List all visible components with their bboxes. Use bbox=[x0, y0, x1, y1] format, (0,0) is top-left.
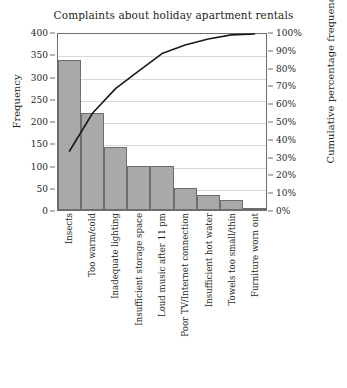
y-left-tick-mark bbox=[50, 122, 55, 123]
y-right-tick-mark bbox=[268, 50, 273, 51]
y-left-tick-label: 200 bbox=[31, 118, 48, 127]
y-left-tick-label: 350 bbox=[31, 51, 48, 60]
x-category-label: Insects bbox=[64, 213, 73, 244]
y-left-tick-label: 300 bbox=[31, 73, 48, 82]
y-left-tick-mark bbox=[50, 33, 55, 34]
x-label-slot: Furniture worn out bbox=[244, 213, 267, 388]
y-right-tick-label: 10% bbox=[276, 189, 296, 198]
y-left-tick-mark bbox=[50, 211, 55, 212]
cumulative-line bbox=[70, 34, 255, 151]
y-right-tick-mark bbox=[268, 157, 273, 158]
y-left-tick-mark bbox=[50, 166, 55, 167]
x-category-label: Inadequate lighting bbox=[111, 213, 120, 299]
y-right-tick-label: 20% bbox=[276, 171, 296, 180]
x-label-slot: Loud music after 11 pm bbox=[150, 213, 173, 388]
x-category-label: Towels too small/thin bbox=[227, 213, 236, 305]
y-axis-right: 0%10%20%30%40%50%60%70%80%90%100% bbox=[268, 33, 320, 211]
y-right-tick-mark bbox=[268, 139, 273, 140]
y-left-tick-mark bbox=[50, 77, 55, 78]
x-label-slot: Inadequate lighting bbox=[104, 213, 127, 388]
x-category-label: Insufficient storage space bbox=[134, 213, 143, 326]
x-label-slot: Insufficient storage space bbox=[127, 213, 150, 388]
plot-area bbox=[57, 33, 267, 211]
cumulative-line-series bbox=[58, 34, 266, 210]
x-label-slot: Towels too small/thin bbox=[220, 213, 243, 388]
y-left-tick-label: 250 bbox=[31, 95, 48, 104]
x-category-label: Poor TV/Internet connection bbox=[181, 213, 190, 337]
y-right-tick-label: 70% bbox=[276, 82, 296, 91]
y-right-tick-mark bbox=[268, 193, 273, 194]
y-left-tick-mark bbox=[50, 55, 55, 56]
y-right-tick-mark bbox=[268, 86, 273, 87]
y-right-tick-label: 0% bbox=[276, 207, 290, 216]
y-right-tick-mark bbox=[268, 175, 273, 176]
chart-title: Complaints about holiday apartment renta… bbox=[0, 9, 347, 21]
x-label-slot: Insufficient hot water bbox=[197, 213, 220, 388]
y-left-tick-mark bbox=[50, 188, 55, 189]
y-right-tick-mark bbox=[268, 104, 273, 105]
y-right-tick-mark bbox=[268, 33, 273, 34]
y-right-tick-label: 90% bbox=[276, 46, 296, 55]
x-label-slot: Insects bbox=[57, 213, 80, 388]
y-right-tick-mark bbox=[268, 211, 273, 212]
y-right-tick-label: 40% bbox=[276, 135, 296, 144]
y-left-tick-label: 100 bbox=[31, 162, 48, 171]
x-label-slot: Too warm/cold bbox=[80, 213, 103, 388]
y-right-tick-label: 30% bbox=[276, 153, 296, 162]
x-label-slot: Poor TV/Internet connection bbox=[174, 213, 197, 388]
y-right-tick-mark bbox=[268, 68, 273, 69]
y-left-tick-label: 0 bbox=[42, 207, 48, 216]
y-right-tick-label: 100% bbox=[276, 29, 302, 38]
y-left-tick-mark bbox=[50, 144, 55, 145]
y-axis-right-title: Cumulative percentage frequency bbox=[325, 4, 336, 164]
y-left-tick-label: 50 bbox=[37, 184, 48, 193]
x-category-label: Insufficient hot water bbox=[204, 213, 213, 307]
y-right-tick-label: 60% bbox=[276, 100, 296, 109]
y-left-tick-mark bbox=[50, 99, 55, 100]
y-right-tick-label: 80% bbox=[276, 64, 296, 73]
x-category-label: Too warm/cold bbox=[87, 213, 96, 277]
y-left-tick-label: 400 bbox=[31, 29, 48, 38]
y-left-tick-label: 150 bbox=[31, 140, 48, 149]
y-right-tick-label: 50% bbox=[276, 118, 296, 127]
y-right-tick-mark bbox=[268, 122, 273, 123]
x-category-label: Furniture worn out bbox=[251, 213, 260, 297]
y-axis-left: 050100150200250300350400 bbox=[0, 33, 55, 211]
pareto-chart: Complaints about holiday apartment renta… bbox=[0, 0, 347, 388]
x-axis-category-labels: InsectsToo warm/coldInadequate lightingI… bbox=[57, 213, 267, 388]
x-category-label: Loud music after 11 pm bbox=[157, 213, 166, 317]
